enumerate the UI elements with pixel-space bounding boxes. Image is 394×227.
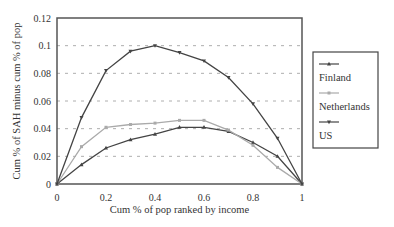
x-axis-label: Cum % of pop ranked by income (110, 204, 250, 215)
data-point-netherlands (105, 126, 108, 129)
legend-label-netherlands: Netherlands (319, 101, 370, 112)
data-point-netherlands (129, 123, 132, 126)
series-line-us (57, 46, 302, 184)
gridlines (57, 46, 302, 157)
chart: 00.020.040.060.080.10.12 00.20.40.60.81 … (0, 0, 394, 227)
y-tick-label: 0.1 (39, 40, 52, 51)
data-point-netherlands (178, 119, 181, 122)
legend: FinlandNetherlandsUS (313, 52, 378, 148)
x-axis-ticks: 00.20.40.60.81 (55, 192, 305, 203)
data-point-netherlands (276, 166, 279, 169)
y-tick-label: 0.08 (34, 68, 52, 79)
legend-marker-netherlands (328, 92, 331, 95)
x-tick-label: 1 (300, 192, 305, 203)
y-tick-label: 0 (46, 179, 51, 190)
data-point-netherlands (80, 145, 83, 148)
legend-label-finland: Finland (319, 72, 352, 83)
y-tick-label: 0.06 (34, 96, 52, 107)
data-point-netherlands (252, 144, 255, 147)
y-axis-ticks: 00.020.040.060.080.10.12 (34, 13, 52, 190)
y-axis-label: Cum % of SAH minus cum % of pop (11, 23, 22, 180)
y-tick-label: 0.12 (34, 13, 52, 24)
x-tick-label: 0.4 (149, 192, 162, 203)
legend-label-us: US (319, 130, 333, 141)
series-line-netherlands (57, 120, 302, 184)
data-point-us (80, 116, 84, 120)
series-group (55, 44, 304, 186)
x-tick-label: 0 (55, 192, 60, 203)
data-point-netherlands (227, 129, 230, 132)
data-point-netherlands (154, 122, 157, 125)
x-tick-label: 0.8 (247, 192, 260, 203)
series-finland (55, 125, 304, 185)
y-tick-label: 0.02 (34, 151, 52, 162)
series-us (55, 44, 304, 186)
x-tick-label: 0.6 (198, 192, 211, 203)
x-tick-label: 0.2 (100, 192, 113, 203)
data-point-netherlands (203, 119, 206, 122)
y-tick-label: 0.04 (34, 123, 52, 134)
